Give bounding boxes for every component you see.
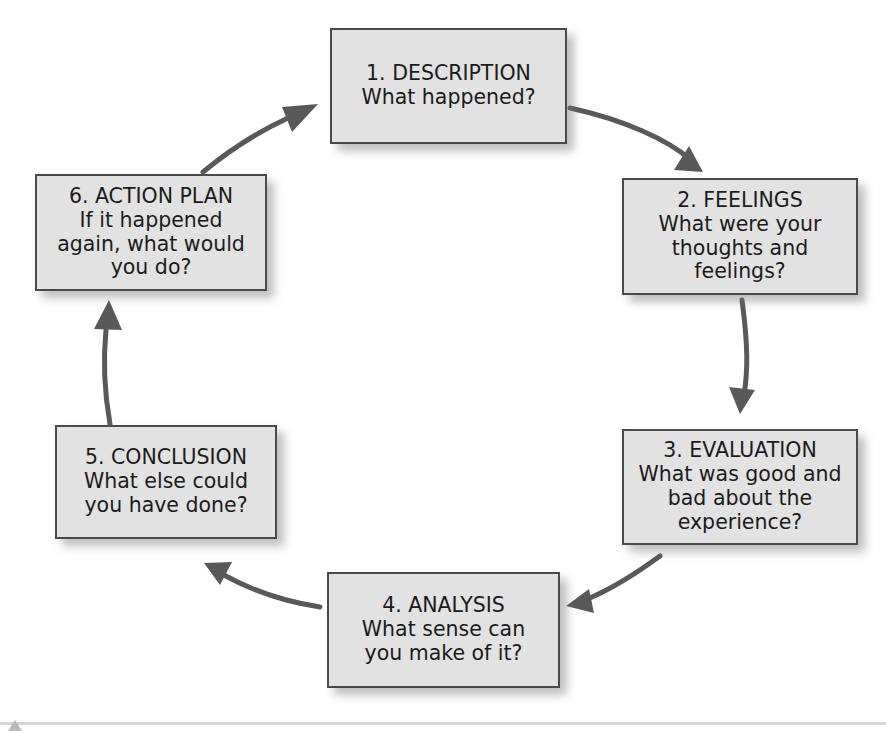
node-action-plan-title: 6. ACTION PLAN: [69, 185, 233, 209]
arrow-feelings-to-evaluation: [729, 300, 755, 414]
node-action-plan[interactable]: 6. ACTION PLAN If it happened again, wha…: [35, 174, 267, 291]
arrow-action-plan-to-description: [203, 104, 318, 172]
node-evaluation-body: What was good and bad about the experien…: [638, 463, 841, 534]
node-evaluation-title: 3. EVALUATION: [663, 439, 817, 463]
arrow-conclusion-to-action-plan: [94, 300, 122, 424]
arrow-evaluation-to-analysis: [566, 556, 660, 613]
page-bottom-rule: [0, 722, 886, 725]
node-evaluation[interactable]: 3. EVALUATION What was good and bad abou…: [622, 429, 858, 545]
node-description[interactable]: 1. DESCRIPTION What happened?: [330, 28, 567, 144]
node-feelings-body: What were your thoughts and feelings?: [659, 213, 822, 284]
arrow-description-to-feelings: [570, 108, 703, 172]
node-feelings-title: 2. FEELINGS: [677, 189, 802, 213]
arrow-analysis-to-conclusion: [204, 562, 320, 607]
node-analysis-title: 4. ANALYSIS: [382, 594, 505, 618]
node-action-plan-body: If it happened again, what would you do?: [57, 209, 245, 280]
node-analysis-body: What sense can you make of it?: [362, 618, 525, 666]
node-feelings[interactable]: 2. FEELINGS What were your thoughts and …: [622, 178, 858, 295]
node-analysis[interactable]: 4. ANALYSIS What sense can you make of i…: [327, 572, 560, 688]
node-conclusion[interactable]: 5. CONCLUSION What else could you have d…: [55, 425, 277, 539]
node-description-body: What happened?: [361, 86, 535, 110]
node-description-title: 1. DESCRIPTION: [366, 62, 531, 86]
node-conclusion-body: What else could you have done?: [84, 470, 248, 518]
page-corner-marker: [8, 720, 22, 731]
node-conclusion-title: 5. CONCLUSION: [85, 446, 247, 470]
diagram-canvas: 1. DESCRIPTION What happened? 2. FEELING…: [0, 0, 886, 731]
